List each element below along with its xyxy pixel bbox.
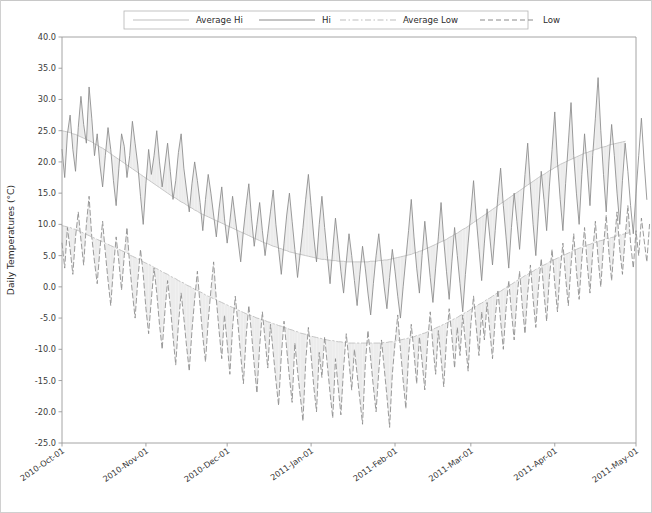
y-tick-label: 40.0 (38, 32, 56, 42)
y-tick-label: 15.0 (38, 188, 56, 198)
x-tick-label: 2010-Oct-01 (18, 445, 66, 483)
y-tick-label: -15.0 (35, 376, 56, 386)
y-axis-title: Daily Temperatures (°C) (5, 185, 16, 295)
y-tick-label: -20.0 (35, 407, 56, 417)
x-tick-label: 2011-Mar-01 (427, 445, 475, 483)
x-tick-label: 2010-Nov-01 (101, 445, 150, 484)
y-tick-label: -25.0 (35, 438, 56, 448)
legend-average-hi-label: Average Hi (196, 15, 243, 25)
y-tick-label: 0.0 (43, 282, 56, 292)
y-tick-label: 10.0 (38, 219, 56, 229)
y-tick-label: -5.0 (40, 313, 56, 323)
y-tick-label: 30.0 (38, 94, 56, 104)
legend-hi-label: Hi (322, 15, 331, 25)
y-tick-label: 25.0 (38, 126, 56, 136)
x-tick-label: 2011-Feb-01 (351, 445, 399, 483)
x-tick-label: 2011-Apr-01 (512, 445, 559, 482)
y-tick-label: -10.0 (35, 344, 56, 354)
y-tick-label: 35.0 (38, 63, 56, 73)
x-tick-label: 2011-May-01 (590, 445, 640, 484)
x-tick-label: 2011-Jan-01 (268, 445, 315, 482)
x-tick-label: 2010-Dec-01 (182, 445, 231, 484)
series-average-hi (62, 131, 625, 262)
legend-low-label: Low (543, 15, 560, 25)
y-tick-label: 5.0 (43, 251, 56, 261)
figure-canvas: 40.035.030.025.020.015.010.05.00.0-5.0-1… (0, 0, 652, 513)
y-tick-label: 20.0 (38, 157, 56, 167)
temperature-line-chart: 40.035.030.025.020.015.010.05.00.0-5.0-1… (0, 0, 652, 513)
legend-average-low-label: Average Low (403, 15, 458, 25)
fill-low-band (62, 196, 636, 427)
series-low (62, 196, 650, 427)
